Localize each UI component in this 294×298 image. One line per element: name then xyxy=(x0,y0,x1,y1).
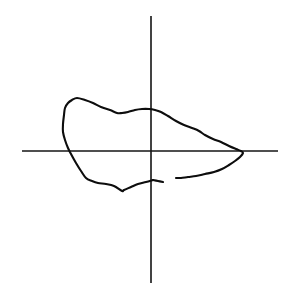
figure-root xyxy=(0,0,294,298)
plot-background xyxy=(0,0,294,298)
plot-canvas xyxy=(0,0,294,298)
